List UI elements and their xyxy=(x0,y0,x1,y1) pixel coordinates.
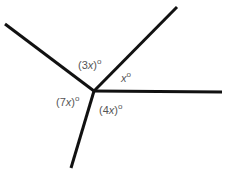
angle-label-4x: (4x)o xyxy=(99,103,122,116)
ray-right xyxy=(94,91,222,92)
angle-diagram xyxy=(0,0,229,175)
angle-label-3x: (3x)o xyxy=(78,58,101,71)
ray-upper-right xyxy=(94,7,177,91)
angle-label-7x: (7x)o xyxy=(56,95,79,108)
angle-label-x: xo xyxy=(121,71,131,84)
